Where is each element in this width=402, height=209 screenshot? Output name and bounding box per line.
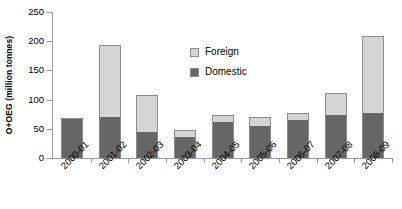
legend-label-foreign: Foreign (205, 47, 239, 57)
x-tick (128, 159, 129, 163)
bar-segment-foreign (249, 117, 271, 126)
bar-segment-foreign (99, 45, 121, 117)
bar-segment-foreign (287, 113, 309, 120)
bar-segment-foreign (174, 130, 196, 137)
y-axis-title: O+OEG (million tonnes) (0, 0, 18, 170)
legend-swatch-domestic-icon (190, 68, 199, 77)
y-tick (47, 12, 52, 13)
x-tick (354, 159, 355, 163)
legend-swatch-foreign-icon (190, 48, 199, 57)
y-tick-label: 200 (4, 36, 44, 46)
legend-item-domestic: Domestic (190, 67, 247, 77)
y-tick-label: 50 (4, 124, 44, 134)
y-tick (47, 100, 52, 101)
y-axis-title-text: O+OEG (million tonnes) (4, 36, 14, 134)
bar-segment-foreign (136, 95, 158, 132)
legend-item-foreign: Foreign (190, 47, 247, 57)
bar-segment-foreign (362, 36, 384, 113)
y-tick-label: 100 (4, 95, 44, 105)
y-tick-label: 150 (4, 65, 44, 75)
y-tick (47, 70, 52, 71)
x-tick (317, 159, 318, 163)
x-tick (279, 159, 280, 163)
x-tick (91, 159, 92, 163)
y-tick-label: 250 (4, 7, 44, 17)
x-tick (204, 159, 205, 163)
x-tick (392, 159, 393, 163)
legend-label-domestic: Domestic (205, 67, 247, 77)
x-tick (241, 159, 242, 163)
bar-chart: O+OEG (million tonnes) 050100150200250 2… (0, 0, 402, 209)
bar-group (362, 36, 384, 158)
y-tick-label: 0 (4, 153, 44, 163)
chart-legend: Foreign Domestic (190, 47, 247, 87)
y-tick (47, 158, 52, 159)
x-tick (166, 159, 167, 163)
y-tick (47, 129, 52, 130)
y-tick (47, 41, 52, 42)
bar-segment-foreign (325, 93, 347, 115)
bar-segment-foreign (212, 115, 234, 122)
